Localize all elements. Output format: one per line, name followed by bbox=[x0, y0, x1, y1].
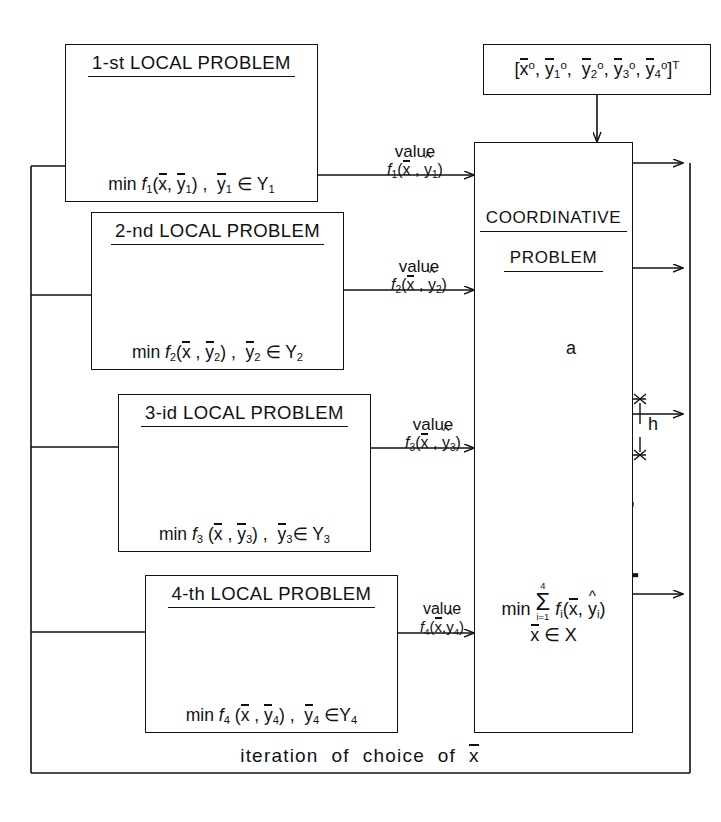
local-problem-1-box[interactable]: 1-st LOCAL PROBLEM min f1(x, y1) , y1 ∈ … bbox=[65, 44, 318, 202]
dimension-label-h: h bbox=[648, 414, 658, 435]
coordinative-objective: min 4 Σ i=1 fi(x, yi) bbox=[475, 582, 632, 623]
coordinative-constraint: x ∈ X bbox=[475, 624, 632, 646]
coordinative-title-line-1: COORDINATIVE bbox=[475, 206, 632, 232]
value-label-1: value f1(x , y1) bbox=[355, 143, 475, 180]
local-problem-3-title: 3-id LOCAL PROBLEM bbox=[119, 402, 370, 427]
local-problem-3-box[interactable]: 3-id LOCAL PROBLEM min f3 (x , y3) , y3∈… bbox=[118, 394, 371, 552]
local-problem-2-title: 2-nd LOCAL PROBLEM bbox=[92, 220, 343, 245]
iteration-label: iteration of choice of x bbox=[160, 745, 560, 767]
local-problem-4-title: 4-th LOCAL PROBLEM bbox=[146, 583, 397, 608]
value-formula-2: f2(x , y2) bbox=[360, 276, 478, 296]
summation-symbol: 4 Σ i=1 bbox=[536, 582, 551, 623]
local-problem-4-box[interactable]: 4-th LOCAL PROBLEM min f4 (x , y4) , y4 … bbox=[145, 575, 398, 733]
value-formula-3: f3(x , y3) bbox=[378, 434, 488, 454]
local-problem-2-box[interactable]: 2-nd LOCAL PROBLEM min f2(x , y2) , y2 ∈… bbox=[91, 212, 344, 370]
value-label-3: value f3(x , y3) bbox=[378, 416, 488, 453]
local-problem-2-formula: min f2(x , y2) , y2 ∈ Y2 bbox=[92, 342, 343, 363]
local-problem-1-title: 1-st LOCAL PROBLEM bbox=[66, 52, 317, 77]
local-problem-4-formula: min f4 (x , y4) , y4 ∈Y4 bbox=[146, 705, 397, 726]
initial-vector-box: [xo, y1o, y2o, y3o, y4o]T bbox=[483, 44, 711, 95]
value-label-2: value f2(x , y2) bbox=[360, 258, 478, 295]
local-problem-1-formula: min f1(x, y1) , y1 ∈ Y1 bbox=[66, 174, 317, 195]
value-formula-1: f1(x , y1) bbox=[355, 161, 475, 181]
local-problem-3-formula: min f3 (x , y3) , y3∈ Y3 bbox=[119, 524, 370, 545]
diagram-canvas: [xo, y1o, y2o, y3o, y4o]T 1-st LOCAL PRO… bbox=[0, 0, 721, 822]
coordinative-title-line-2: PROBLEM bbox=[475, 246, 632, 272]
coordinative-problem-box[interactable]: COORDINATIVE PROBLEM min 4 Σ i=1 fi(x, y… bbox=[474, 142, 633, 733]
dimension-label-a: a bbox=[566, 338, 576, 359]
initial-vector-label: [xo, y1o, y2o, y3o, y4o]T bbox=[515, 59, 680, 80]
